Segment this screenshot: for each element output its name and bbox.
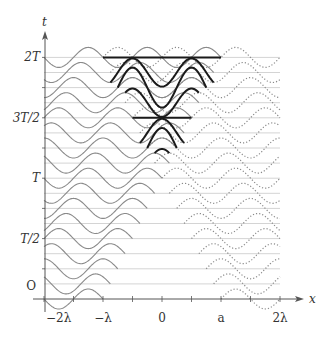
time-baselines bbox=[44, 57, 280, 284]
x-tick-label: 2λ bbox=[272, 311, 288, 325]
y-tick-labels: OT/2T3T/22T bbox=[13, 50, 41, 293]
wave-diagram: x t −2λ−λ0a2λ OT/2T3T/22T bbox=[0, 0, 332, 340]
x-tick-label: 0 bbox=[158, 311, 166, 325]
y-tick-label: 3T/2 bbox=[13, 111, 40, 125]
axes bbox=[33, 31, 304, 312]
x-axis-label: x bbox=[309, 292, 316, 306]
y-tick-label: T bbox=[32, 171, 41, 185]
y-tick-label: 2T bbox=[23, 50, 41, 64]
y-axis-label: t bbox=[42, 15, 47, 29]
x-tick-label: −λ bbox=[94, 311, 112, 325]
standing-wave bbox=[155, 149, 170, 153]
standing-wave bbox=[140, 119, 184, 143]
x-tick-label: −2λ bbox=[46, 311, 72, 325]
y-tick-label: O bbox=[26, 279, 36, 293]
x-tick-labels: −2λ−λ0a2λ bbox=[46, 311, 288, 325]
y-tick-label: T/2 bbox=[20, 232, 40, 246]
standing-waves bbox=[103, 57, 221, 153]
x-tick-label: a bbox=[217, 311, 224, 325]
